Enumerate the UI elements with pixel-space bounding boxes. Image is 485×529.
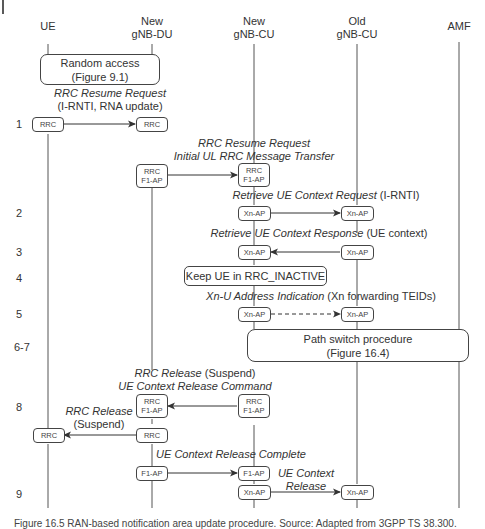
message-params: (UE context) (363, 227, 427, 239)
protocol-box-rrc-f1ap: RRC F1-AP (136, 394, 168, 418)
protocol-label: RRC (246, 397, 262, 406)
protocol-box-rrc: RRC (136, 428, 168, 443)
message-params: (Suspend) (202, 367, 256, 379)
step-number-8: 8 (16, 401, 22, 413)
protocol-label: F1-AP (243, 469, 264, 478)
protocol-label: F1-AP (141, 469, 162, 478)
protocol-label: F1-AP (141, 176, 162, 185)
message-name: Release (276, 480, 336, 493)
message-xn-u-address-indication: Xn-U Address Indication (Xn forwarding T… (186, 290, 456, 303)
protocol-label: RRC (40, 120, 56, 129)
entity-label: AMF (429, 20, 485, 33)
entity-new-gnb-du: New gNB-DU (117, 15, 187, 41)
entity-ue: UE (18, 20, 78, 33)
message-params: (I-RNTI, RNA update) (50, 100, 170, 113)
message-ue-context-release-command: RRC Release (Suspend) UE Context Release… (110, 367, 280, 393)
entity-label: UE (18, 20, 78, 33)
message-name: RRC Release (134, 367, 201, 379)
protocol-box-rrc: RRC (136, 117, 168, 132)
protocol-label: Xn-AP (244, 248, 266, 257)
protocol-box-xnap: Xn-AP (341, 307, 374, 322)
protocol-box-xnap: Xn-AP (238, 245, 271, 260)
message-name: UE Context Release Command (110, 380, 280, 393)
protocol-box-xnap: Xn-AP (341, 245, 374, 260)
message-retrieve-ue-context-response: Retrieve UE Context Response (UE context… (204, 227, 434, 240)
protocol-box-rrc-f1ap: RRC F1-AP (238, 163, 270, 187)
step-number-4: 4 (16, 272, 22, 284)
protocol-label: Xn-AP (347, 209, 369, 218)
protocol-box-xnap: Xn-AP (238, 206, 271, 221)
protocol-box-f1ap: F1-AP (238, 466, 270, 481)
entity-label: gNB-DU (117, 28, 187, 41)
protocol-label: RRC (144, 120, 160, 129)
procedure-reference: (Figure 16.4) (327, 346, 390, 360)
message-ue-context-release: UE Context Release (276, 467, 336, 493)
message-params: (Xn forwarding TEIDs) (324, 290, 436, 302)
protocol-box-xnap: Xn-AP (341, 485, 374, 500)
protocol-label: Xn-AP (347, 248, 369, 257)
message-name: Retrieve UE Context Request (232, 189, 376, 201)
entity-label: gNB-CU (322, 28, 392, 41)
protocol-label: F1-AP (141, 406, 162, 415)
entity-amf: AMF (429, 20, 485, 33)
entity-old-gnb-cu: Old gNB-CU (322, 15, 392, 41)
protocol-box-rrc: RRC (33, 428, 65, 443)
protocol-box-rrc-f1ap: RRC F1-AP (136, 164, 168, 188)
protocol-label: Xn-AP (244, 209, 266, 218)
message-name: UE Context (276, 467, 336, 480)
protocol-box-xnap: Xn-AP (238, 485, 271, 500)
protocol-box-f1ap: F1-AP (136, 466, 168, 481)
message-retrieve-ue-context-request: Retrieve UE Context Request (I-RNTI) (226, 189, 426, 202)
protocol-label: RRC (41, 431, 57, 440)
step-number-3: 3 (16, 246, 22, 258)
message-name: UE Context Release Complete (156, 448, 306, 460)
figure-caption: Figure 16.5 RAN-based notification area … (14, 518, 457, 529)
message-rrc-resume-request: RRC Resume Request (I-RNTI, RNA update) (50, 87, 170, 113)
protocol-label: F1-AP (243, 406, 264, 415)
protocol-label: F1-AP (243, 175, 264, 184)
step-number-2: 2 (16, 207, 22, 219)
step-number-6-7: 6-7 (14, 341, 30, 353)
protocol-label: RRC (144, 397, 160, 406)
message-ue-context-release-complete: UE Context Release Complete (126, 448, 336, 461)
message-rrc-release-suspend: RRC Release (Suspend) (64, 405, 134, 431)
message-params: (I-RNTI) (377, 189, 420, 201)
step-number-9: 9 (16, 488, 22, 500)
protocol-label: Xn-AP (244, 310, 266, 319)
entity-label: New (117, 15, 187, 28)
step-number-1: 1 (16, 118, 22, 130)
protocol-box-rrc: RRC (32, 117, 64, 132)
message-name: Retrieve UE Context Response (210, 227, 363, 239)
message-params: (Suspend) (64, 418, 134, 431)
protocol-label: Xn-AP (244, 488, 266, 497)
message-name: Initial UL RRC Message Transfer (124, 150, 384, 163)
entity-label: Old (322, 15, 392, 28)
protocol-label: RRC (144, 167, 160, 176)
keep-ue-inactive-box: Keep UE in RRC_INACTIVE (184, 266, 327, 286)
protocol-box-xnap: Xn-AP (341, 206, 374, 221)
protocol-box-xnap: Xn-AP (238, 307, 271, 322)
protocol-label: RRC (246, 166, 262, 175)
entity-label: gNB-CU (219, 28, 289, 41)
random-access-procedure-box: Random access (Figure 9.1) (40, 54, 160, 85)
message-name: RRC Resume Request (124, 137, 384, 150)
message-name: RRC Resume Request (50, 87, 170, 100)
procedure-label: Path switch procedure (304, 332, 413, 346)
protocol-label: RRC (144, 431, 160, 440)
message-name: RRC Release (64, 405, 134, 418)
entity-new-gnb-cu: New gNB-CU (219, 15, 289, 41)
procedure-reference: (Figure 9.1) (72, 70, 129, 84)
message-initial-ul-rrc-transfer: RRC Resume Request Initial UL RRC Messag… (124, 137, 384, 163)
protocol-box-rrc-f1ap: RRC F1-AP (238, 394, 270, 418)
procedure-label: Random access (61, 56, 140, 70)
entity-label: New (219, 15, 289, 28)
step-number-5: 5 (16, 308, 22, 320)
path-switch-procedure-box: Path switch procedure (Figure 16.4) (247, 329, 469, 362)
protocol-label: Xn-AP (347, 488, 369, 497)
message-name: Xn-U Address Indication (206, 290, 324, 302)
protocol-label: Xn-AP (347, 310, 369, 319)
procedure-label: Keep UE in RRC_INACTIVE (186, 269, 325, 283)
